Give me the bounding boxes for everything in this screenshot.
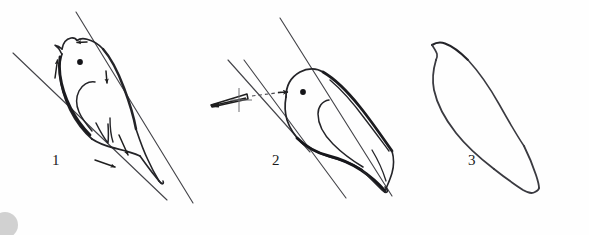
bird-1-underbody	[92, 139, 140, 156]
bird-2-back	[323, 72, 392, 151]
panel-label-2: 2	[272, 153, 280, 168]
arrow-neck-down	[106, 71, 107, 83]
bird-3-back	[468, 60, 524, 146]
forceps-instrument	[211, 88, 252, 112]
bird-1-beak	[55, 45, 62, 54]
bird-3-breast	[433, 60, 494, 169]
crosshair-marker	[230, 88, 252, 112]
bird-2-wing	[318, 100, 363, 167]
panel-1-bird	[55, 38, 163, 184]
panel-2-guide-lines	[228, 18, 392, 198]
arrow-tail-upper	[119, 135, 128, 155]
panel-2-bird	[285, 69, 393, 193]
bird-1-vent-crease	[110, 118, 113, 142]
bird-2-tail-upper	[385, 151, 394, 191]
guide-line-lower	[13, 53, 167, 200]
panel-label-3: 3	[468, 153, 476, 168]
bird-1-tail-notch	[96, 123, 108, 143]
panel-2	[211, 18, 394, 198]
bird-2-eye	[300, 89, 306, 95]
bird-3-tail-lower	[494, 169, 539, 193]
panel-3	[432, 43, 539, 193]
panel-3-bird-outline	[432, 43, 539, 193]
bird-1-back	[103, 49, 136, 129]
bird-handling-diagram	[0, 0, 589, 235]
bird-1-crown	[62, 38, 103, 49]
figure-root: 1 2 3	[0, 0, 589, 235]
bird-1-eye	[77, 59, 83, 65]
guide-line-upper	[280, 18, 392, 196]
arrow-tail-lower	[95, 160, 115, 167]
panel-label-1: 1	[52, 153, 60, 168]
panel-1	[13, 12, 193, 203]
bird-2-face	[285, 97, 301, 142]
panel-1-guide-lines	[13, 12, 193, 203]
bird-1-tail-lower	[140, 156, 163, 183]
arrow-nape-up	[55, 60, 58, 78]
arrow-head-top	[77, 42, 87, 43]
bird-3-tail-upper	[524, 146, 539, 188]
bird-2-wing-upper	[330, 80, 389, 151]
bird-3-beak-under	[432, 45, 437, 60]
